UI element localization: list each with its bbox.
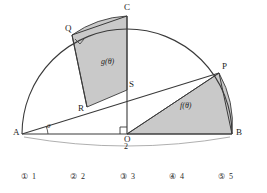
point-label-R: R [78, 104, 84, 113]
point-label-B: B [236, 128, 242, 137]
choice-marker-4: ④ [168, 172, 177, 181]
answer-choice-3[interactable]: ③ 3 [119, 172, 135, 181]
answer-choice-5[interactable]: ⑤ 5 [217, 172, 233, 181]
answer-choices: ① 1 ② 2 ③ 3 ④ 4 ⑤ 5 [0, 160, 267, 193]
region-label-f: f(θ) [180, 102, 191, 110]
choice-marker-1: ① [20, 172, 29, 181]
dimension-label-2: 2 [124, 143, 128, 151]
point-label-A: A [13, 128, 20, 137]
point-label-P: P [222, 62, 227, 71]
choice-value-4: 4 [180, 172, 184, 181]
answer-choice-2[interactable]: ② 2 [69, 172, 85, 181]
choice-marker-2: ② [69, 172, 78, 181]
choice-marker-3: ③ [119, 172, 128, 181]
choice-value-2: 2 [81, 172, 85, 181]
choice-value-1: 1 [32, 172, 36, 181]
point-label-C: C [124, 3, 130, 12]
angle-label-theta: θ [47, 123, 50, 130]
answer-choice-4[interactable]: ④ 4 [168, 172, 184, 181]
point-label-Q: Q [65, 24, 72, 33]
choice-marker-5: ⑤ [217, 172, 226, 181]
right-angle-marker-O [120, 127, 127, 134]
point-label-S: S [129, 80, 134, 89]
region-label-g: g(θ) [101, 58, 114, 66]
figure-page: A B O C P Q R S g(θ) f(θ) θ 2 ① 1 ② 2 ③ … [0, 0, 267, 193]
choice-value-3: 3 [131, 172, 135, 181]
answer-choice-1[interactable]: ① 1 [20, 172, 36, 181]
choice-value-5: 5 [229, 172, 233, 181]
